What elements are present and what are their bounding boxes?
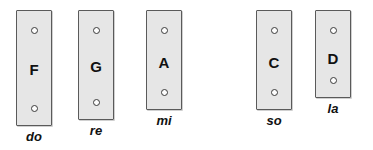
solfege-label: re <box>78 124 114 138</box>
note-letter: F <box>17 62 51 77</box>
resonator-bar-c[interactable]: C <box>256 10 292 110</box>
solfege-label: do <box>16 130 52 144</box>
solfege-label: so <box>256 114 292 128</box>
mounting-hole-bottom <box>330 77 337 84</box>
note-letter: A <box>147 55 181 70</box>
solfege-label: mi <box>146 114 182 128</box>
resonator-bar-d[interactable]: D <box>315 10 351 98</box>
mounting-hole-top <box>271 27 278 34</box>
mounting-hole-bottom <box>93 99 100 106</box>
mounting-hole-bottom <box>271 89 278 96</box>
mounting-hole-top <box>93 27 100 34</box>
resonator-bar-a[interactable]: A <box>146 10 182 110</box>
resonator-bar-g[interactable]: G <box>78 10 114 120</box>
note-letter: C <box>257 55 291 70</box>
resonator-bar-diagram: FdoGreAmiCsoDla <box>0 0 373 150</box>
mounting-hole-bottom <box>31 105 38 112</box>
resonator-bar-f[interactable]: F <box>16 10 52 126</box>
note-letter: G <box>79 59 113 74</box>
solfege-label: la <box>315 102 351 116</box>
mounting-hole-top <box>31 27 38 34</box>
mounting-hole-top <box>330 27 337 34</box>
note-letter: D <box>316 51 350 66</box>
mounting-hole-bottom <box>161 89 168 96</box>
mounting-hole-top <box>161 27 168 34</box>
